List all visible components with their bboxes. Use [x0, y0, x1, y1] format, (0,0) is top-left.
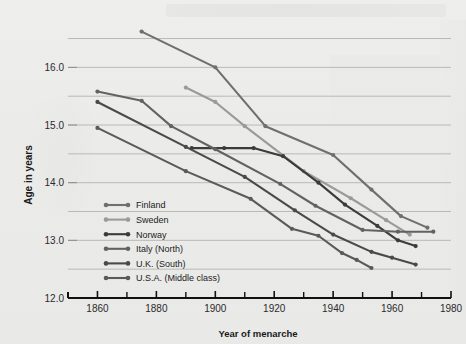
data-point [95, 126, 99, 130]
legend-item-sweden[interactable]: Sweden [104, 215, 169, 225]
data-point [340, 251, 344, 255]
legend-swatch-marker-end [126, 217, 131, 222]
data-point [384, 218, 388, 222]
data-point [213, 100, 217, 104]
data-point [331, 153, 335, 157]
data-point [361, 228, 365, 232]
legend-swatch-marker-end [126, 203, 131, 208]
data-point [369, 250, 373, 254]
data-point [375, 224, 379, 228]
series-finland [140, 30, 430, 230]
y-tick-label: 12.0 [45, 293, 65, 304]
chart-legend: FinlandSwedenNorwayItaly (North)U.K. (So… [104, 200, 220, 283]
data-point [396, 230, 400, 234]
legend-item-italy-north[interactable]: Italy (North) [104, 244, 183, 254]
legend-swatch-marker-start [104, 261, 109, 266]
x-tick-label: 1920 [263, 303, 286, 314]
legend-swatch-marker-start [104, 203, 109, 208]
data-point [249, 197, 253, 201]
data-point [243, 124, 247, 128]
y-tick-label: 16.0 [45, 62, 65, 73]
data-point [431, 230, 435, 234]
x-axis-title: Year of menarche [218, 328, 297, 339]
data-point [316, 181, 320, 185]
data-point [169, 124, 173, 128]
legend-swatch-marker-end [126, 276, 131, 281]
series-italy-north [95, 89, 435, 233]
data-point [408, 232, 412, 236]
legend-swatch-marker-start [104, 232, 109, 237]
data-point [290, 227, 294, 231]
data-point [140, 30, 144, 34]
legend-label: U.S.A. (Middle class) [136, 273, 220, 283]
data-point [414, 244, 418, 248]
data-point [414, 262, 418, 266]
data-point [369, 266, 373, 270]
data-point [313, 204, 317, 208]
data-point [263, 124, 267, 128]
legend-label: Finland [136, 200, 166, 210]
data-point [278, 182, 282, 186]
data-point [243, 175, 247, 179]
data-point [349, 196, 353, 200]
data-point [252, 146, 256, 150]
data-point [396, 238, 400, 242]
y-tick-label: 13.0 [45, 235, 65, 246]
data-point [425, 226, 429, 230]
data-point [399, 214, 403, 218]
x-axis-group: 1860188019001920194019601980 [68, 291, 463, 314]
data-point [355, 258, 359, 262]
series-line [142, 32, 428, 228]
data-point [213, 65, 217, 69]
legend-swatch-marker-end [126, 261, 131, 266]
data-point [343, 202, 347, 206]
data-point [184, 145, 188, 149]
data-point [213, 147, 217, 151]
series-sweden [184, 85, 412, 236]
data-point [281, 154, 285, 158]
legend-swatch-marker-start [104, 217, 109, 222]
x-tick-label: 1900 [204, 303, 227, 314]
data-point [184, 169, 188, 173]
x-tick-label: 1880 [145, 303, 168, 314]
legend-label: Sweden [136, 215, 169, 225]
data-point [331, 232, 335, 236]
legend-label: U.K. (South) [136, 259, 186, 269]
data-point [316, 234, 320, 238]
data-point [140, 99, 144, 103]
y-tick-label: 15.0 [45, 120, 65, 131]
legend-item-finland[interactable]: Finland [104, 200, 166, 210]
y-tick-group: 12.013.014.015.016.0 [45, 62, 77, 304]
line-chart: 12.013.014.015.016.0 1860188019001920194… [0, 0, 466, 344]
legend-swatch-marker-start [104, 247, 109, 252]
chart-canvas: 12.013.014.015.016.0 1860188019001920194… [0, 0, 466, 344]
x-tick-label: 1960 [381, 303, 404, 314]
legend-label: Italy (North) [136, 244, 183, 254]
legend-item-u-k-south[interactable]: U.K. (South) [104, 259, 186, 269]
legend-swatch-marker-start [104, 276, 109, 281]
data-point [390, 256, 394, 260]
legend-label: Norway [136, 230, 167, 240]
legend-swatch-marker-end [126, 247, 131, 252]
data-point [369, 188, 373, 192]
x-tick-label: 1940 [322, 303, 345, 314]
x-tick-label: 1860 [86, 303, 109, 314]
data-point [95, 100, 99, 104]
data-point [293, 208, 297, 212]
x-tick-label: 1980 [440, 303, 463, 314]
legend-swatch-marker-end [126, 232, 131, 237]
data-point [222, 146, 226, 150]
legend-item-u-s-a-middle-class[interactable]: U.S.A. (Middle class) [104, 273, 220, 283]
legend-item-norway[interactable]: Norway [104, 230, 167, 240]
data-point [95, 89, 99, 93]
y-tick-label: 14.0 [45, 177, 65, 188]
y-axis-title: Age in years [23, 145, 34, 205]
data-point [184, 85, 188, 89]
